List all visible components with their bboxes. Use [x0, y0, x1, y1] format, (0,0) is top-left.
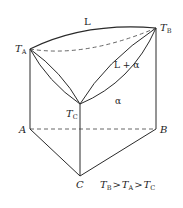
TA-label: TA	[15, 43, 27, 56]
liquid-label: L	[84, 16, 91, 27]
vertex-A-label: A	[18, 124, 26, 135]
liquidus-curve-AC	[30, 49, 80, 104]
TC-label: TC	[66, 108, 78, 121]
solidus-curve-AC	[30, 49, 80, 104]
liquidus-curve-AB	[30, 27, 156, 49]
TB-label: TB	[160, 22, 172, 35]
solid-label: α	[115, 96, 121, 106]
two-phase-label: L + α	[114, 60, 139, 70]
phase-diagram: L TA TB TC L + α α A B C TB>TA>TC	[0, 0, 183, 208]
solidus-curve-AB	[30, 28, 156, 51]
temperature-relation: TB>TA>TC	[100, 179, 155, 192]
base-edge-AC	[30, 129, 80, 176]
vertex-C-label: C	[76, 179, 84, 190]
base-edge-BC	[80, 129, 156, 176]
vertex-B-label: B	[159, 124, 167, 135]
